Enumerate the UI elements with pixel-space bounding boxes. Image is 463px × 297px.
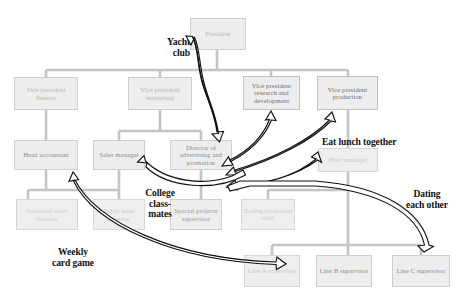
org-box-label: Line A supervisor: [246, 267, 298, 274]
org-box-line-c-supervisor[interactable]: Line C supervisor: [392, 255, 450, 287]
org-box-label: Vice president marketing: [130, 86, 190, 100]
org-box-industrial-sales-director[interactable]: Industrial sales director: [16, 199, 78, 230]
org-box-label: Line B supervisor: [318, 267, 370, 274]
org-box-head-accountant[interactable]: Head accountant: [14, 140, 78, 170]
org-box-vp-production[interactable]: Vice president production: [317, 76, 378, 110]
org-box-vp-marketing[interactable]: Vice president marketing: [128, 77, 192, 110]
org-box-president[interactable]: President: [190, 18, 246, 50]
org-box-label: Vice president finance: [16, 86, 76, 100]
org-box-plant-manager[interactable]: Plant manager: [318, 148, 378, 172]
org-box-label: Head accountant: [16, 151, 76, 158]
org-chart-diagram: President Vice president finance Vice pr…: [0, 0, 463, 297]
org-box-label: Plant manager: [320, 156, 376, 163]
org-box-label: Industrial sales director: [18, 207, 76, 221]
org-box-label: Vice president production: [319, 86, 376, 100]
org-box-label: Sales manager: [95, 151, 143, 158]
org-box-line-b-supervisor[interactable]: Line B supervisor: [316, 255, 372, 287]
org-box-line-a-supervisor[interactable]: Line A supervisor: [244, 255, 300, 287]
annotation-weekly-card-game: Weekly card game: [42, 247, 104, 268]
annotation-dating-each-other: Dating each other: [398, 189, 456, 210]
annotation-college-classmates: College class- mates: [137, 188, 183, 220]
annotation-yacht-club: Yacht club: [136, 37, 190, 58]
org-box-label: President: [192, 30, 244, 37]
org-box-vp-finance[interactable]: Vice president finance: [14, 77, 78, 110]
org-box-vp-research-development[interactable]: Vice president research and development: [243, 76, 300, 110]
org-box-label: Director of advertising and promotion: [172, 144, 230, 165]
org-box-label: Tooling production chief: [243, 208, 293, 221]
org-box-label: Vice president research and development: [245, 82, 298, 103]
annotation-eat-lunch-together: Eat lunch together: [322, 137, 396, 148]
org-box-sales-manager[interactable]: Sales manager: [93, 140, 145, 170]
org-box-tooling-production-chief[interactable]: Tooling production chief: [241, 199, 295, 230]
org-box-label: Retail sales director: [95, 207, 143, 221]
org-box-director-advertising-promotion[interactable]: Director of advertising and promotion: [170, 140, 232, 170]
org-box-label: Line C supervisor: [394, 267, 448, 274]
